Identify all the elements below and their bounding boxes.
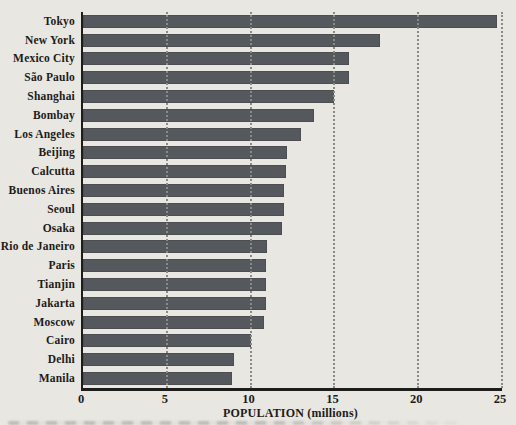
bar-row	[83, 128, 502, 141]
bar-row	[83, 15, 502, 28]
bar	[83, 184, 284, 197]
bar	[83, 278, 266, 291]
x-axis-title: POPULATION (millions)	[81, 406, 500, 421]
category-label: Mexico City	[0, 52, 75, 65]
bar-chart-figure: TokyoNew YorkMexico CitySão PauloShangha…	[0, 0, 516, 425]
bar-row	[83, 372, 502, 385]
bar-row	[83, 278, 502, 291]
gridline	[501, 12, 503, 388]
bar-row	[83, 240, 502, 253]
category-label: Beijing	[0, 146, 75, 159]
y-axis-labels: TokyoNew YorkMexico CitySão PauloShangha…	[0, 12, 75, 388]
category-label: Seoul	[0, 203, 75, 216]
category-label: Cairo	[0, 334, 75, 347]
category-label: Los Angeles	[0, 128, 75, 141]
bar-row	[83, 71, 502, 84]
bar	[83, 353, 234, 366]
bar-row	[83, 259, 502, 272]
bar-row	[83, 184, 502, 197]
bar-row	[83, 353, 502, 366]
bar	[83, 15, 497, 28]
x-tick-label: 10	[242, 393, 255, 406]
bar-row	[83, 165, 502, 178]
category-label: Jakarta	[0, 297, 75, 310]
category-label: Shanghai	[0, 90, 75, 103]
bar	[83, 52, 349, 65]
bar-row	[83, 297, 502, 310]
x-tick-label: 15	[326, 393, 339, 406]
x-tick-label: 5	[162, 393, 168, 406]
category-label: Moscow	[0, 316, 75, 329]
x-tick-label: 25	[494, 393, 507, 406]
bar	[83, 240, 267, 253]
bar-row	[83, 334, 502, 347]
category-label: Bombay	[0, 109, 75, 122]
category-label: Delhi	[0, 353, 75, 366]
category-label: São Paulo	[0, 71, 75, 84]
x-tick-label: 0	[78, 393, 84, 406]
bar-row	[83, 90, 502, 103]
bar	[83, 316, 264, 329]
bar	[83, 71, 349, 84]
bar	[83, 297, 266, 310]
bar	[83, 90, 334, 103]
x-tick-label: 20	[410, 393, 423, 406]
bar	[83, 128, 301, 141]
bar	[83, 146, 287, 159]
category-label: Rio de Janeiro	[0, 240, 75, 253]
bar-row	[83, 316, 502, 329]
bar	[83, 372, 232, 385]
category-label: Buenos Aires	[0, 184, 75, 197]
gridline	[250, 12, 252, 388]
bar-row	[83, 203, 502, 216]
category-label: New York	[0, 34, 75, 47]
bar	[83, 259, 266, 272]
category-label: Osaka	[0, 222, 75, 235]
bars-container	[83, 12, 502, 388]
bar	[83, 222, 282, 235]
bar-row	[83, 222, 502, 235]
category-label: Manila	[0, 372, 75, 385]
category-label: Tianjin	[0, 278, 75, 291]
bar	[83, 203, 284, 216]
gridline	[333, 12, 335, 388]
category-label: Paris	[0, 259, 75, 272]
x-axis-ticks: 0510152025	[81, 393, 500, 407]
gridline	[417, 12, 419, 388]
gridline	[166, 12, 168, 388]
bar	[83, 165, 286, 178]
category-label: Tokyo	[0, 15, 75, 28]
bar-row	[83, 34, 502, 47]
category-label: Calcutta	[0, 165, 75, 178]
bar-row	[83, 146, 502, 159]
plot-area	[81, 12, 502, 391]
bar-row	[83, 52, 502, 65]
bar-row	[83, 109, 502, 122]
cropped-caption-smudge	[8, 421, 460, 425]
bar	[83, 109, 314, 122]
